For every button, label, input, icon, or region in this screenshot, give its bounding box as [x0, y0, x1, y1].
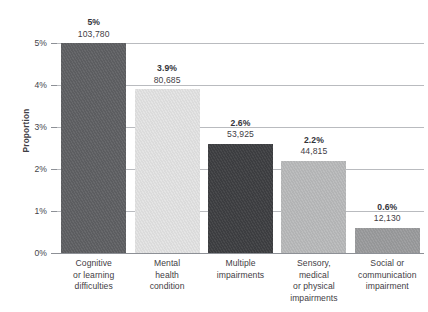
x-axis-category-line: impairments: [272, 293, 355, 305]
bar-percent-value: 2.2%: [269, 135, 358, 147]
bar-texture: [355, 228, 420, 253]
footnote-clip: [0, 306, 428, 312]
x-axis-category-label: Sensory,medicalor physicalimpairments: [272, 258, 355, 304]
bar-texture: [135, 89, 200, 253]
y-tick-4pct: 4%: [0, 79, 57, 91]
y-tick-1pct: 1%: [0, 205, 57, 217]
x-axis-category-line: impairments: [199, 270, 282, 282]
bar-count-value: 12,130: [343, 213, 428, 225]
bar-chart: Proportion 0%1%2%3%4%5% 5%103,7803.9%80,…: [0, 0, 428, 312]
x-axis-category-line: Multiple: [199, 258, 282, 270]
bar-value-label: 3.9%80,685: [123, 63, 212, 86]
bar-count-value: 44,815: [269, 146, 358, 158]
bar-value-label: 2.2%44,815: [269, 135, 358, 158]
y-tick-label: 2%: [34, 164, 51, 174]
bar[interactable]: [135, 89, 200, 253]
y-tick-label: 4%: [34, 80, 51, 90]
x-axis-category-line: communication: [346, 270, 428, 282]
x-axis-category-line: health: [125, 270, 208, 282]
y-tick-0pct: 0%: [0, 247, 57, 259]
x-axis-category-label: Mentalhealthcondition: [125, 258, 208, 293]
bar-texture: [61, 43, 126, 253]
x-axis-category-line: or learning: [52, 270, 135, 282]
bar-percent-value: 3.9%: [123, 63, 212, 75]
x-axis-category-label: Social orcommunicationimpairment: [346, 258, 428, 293]
y-tick-3pct: 3%: [0, 121, 57, 133]
x-axis-category-line: Mental: [125, 258, 208, 270]
x-axis-category-label: Multipleimpairments: [199, 258, 282, 281]
x-axis-category-line: impairment: [346, 281, 428, 293]
bar-texture: [281, 161, 346, 253]
y-tick-label: 0%: [34, 248, 51, 258]
x-axis-category-line: Sensory,: [272, 258, 355, 270]
x-axis-category-line: medical: [272, 270, 355, 282]
x-axis-category-line: difficulties: [52, 281, 135, 293]
y-tick-2pct: 2%: [0, 163, 57, 175]
x-axis-category-line: condition: [125, 281, 208, 293]
bar[interactable]: [355, 228, 420, 253]
bar-texture: [208, 144, 273, 253]
bar[interactable]: [281, 161, 346, 253]
bar-value-label: 5%103,780: [49, 17, 138, 40]
x-axis-category-label: Cognitiveor learningdifficulties: [52, 258, 135, 293]
bar-percent-value: 0.6%: [343, 202, 428, 214]
y-tick-label: 1%: [34, 206, 51, 216]
bar-count-value: 103,780: [49, 29, 138, 41]
bar-value-label: 0.6%12,130: [343, 202, 428, 225]
x-axis-category-line: Cognitive: [52, 258, 135, 270]
x-axis-category-line: or physical: [272, 281, 355, 293]
bar[interactable]: [208, 144, 273, 253]
bar[interactable]: [61, 43, 126, 253]
gridline-0: [57, 253, 424, 254]
bar-percent-value: 5%: [49, 17, 138, 29]
bar-count-value: 80,685: [123, 75, 212, 87]
x-axis-labels: Cognitiveor learningdifficultiesMentalhe…: [57, 258, 424, 306]
y-axis-ticks: 0%1%2%3%4%5%: [0, 0, 57, 312]
y-tick-label: 3%: [34, 122, 51, 132]
x-axis-category-line: Social or: [346, 258, 428, 270]
bar-percent-value: 2.6%: [196, 118, 285, 130]
